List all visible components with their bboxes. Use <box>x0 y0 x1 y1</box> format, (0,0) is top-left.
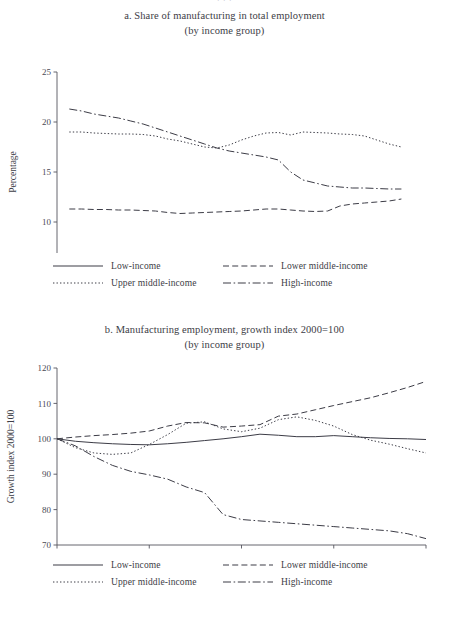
legend-item-upper-middle-income: Upper middle-income <box>52 577 222 587</box>
chart-a-title-block: a. Share of manufacturing in total emplo… <box>0 8 449 38</box>
legend-item-lower-middle-income: Lower middle-income <box>222 560 397 570</box>
x-tick-label: 2015 <box>325 550 344 552</box>
series-line-solid <box>57 434 426 445</box>
legend-item-low-income: Low-income <box>52 261 222 271</box>
y-tick-label: 10 <box>42 217 52 227</box>
chart-b-svg: 70809010011012020002005201020152020Growt… <box>0 352 449 552</box>
legend-item-lower-middle-income: Lower middle-income <box>222 261 397 271</box>
chart-panel-a: a. Share of manufacturing in total emplo… <box>0 8 449 328</box>
legend-label-lower-middle-income: Lower middle-income <box>281 261 368 271</box>
figure-page: · · · a. Share of manufacturing in total… <box>0 0 449 628</box>
y-tick-label: 100 <box>38 434 52 444</box>
legend-row-1: Low-income Lower middle-income <box>0 556 449 573</box>
x-tick-label: 2020 <box>417 550 436 552</box>
y-tick-label: 70 <box>42 540 52 550</box>
y-axis-title: Growth index 2000=100 <box>6 410 16 504</box>
y-tick-label: 15 <box>42 167 52 177</box>
legend-item-upper-middle-income: Upper middle-income <box>52 278 222 288</box>
legend-label-upper-middle-income: Upper middle-income <box>111 577 197 587</box>
chart-b-legend: Low-income Lower middle-income Upper mid… <box>0 556 449 590</box>
series-line-dotted <box>69 132 401 148</box>
legend-item-low-income: Low-income <box>52 560 222 570</box>
legend-item-high-income: High-income <box>222 577 397 587</box>
legend-label-high-income: High-income <box>281 278 332 288</box>
series-line-dash-dot <box>69 109 401 189</box>
series-line-dotted <box>57 417 426 455</box>
legend-swatch-dotted-icon <box>52 278 104 288</box>
x-tick-label: 2000 <box>48 550 67 552</box>
legend-row-2: Upper middle-income High-income <box>0 274 449 291</box>
chart-a-plot-area: 5101520251990200020102020Percentage <box>0 38 449 253</box>
y-axis-title: Percentage <box>8 151 18 193</box>
legend-label-low-income: Low-income <box>111 261 161 271</box>
y-tick-label: 90 <box>42 469 52 479</box>
chart-b-title: b. Manufacturing employment, growth inde… <box>105 324 344 335</box>
chart-a-svg: 5101520251990200020102020Percentage <box>0 38 449 253</box>
legend-row-2: Upper middle-income High-income <box>0 573 449 590</box>
legend-label-low-income: Low-income <box>111 560 161 570</box>
legend-swatch-dash-dot-icon <box>222 577 274 587</box>
cropped-header-artifact: · · · <box>0 0 449 4</box>
chart-b-title-block: b. Manufacturing employment, growth inde… <box>0 322 449 352</box>
chart-b-plot-area: 70809010011012020002005201020152020Growt… <box>0 352 449 552</box>
chart-a-subtitle: (by income group) <box>0 23 449 38</box>
chart-panel-b: b. Manufacturing employment, growth inde… <box>0 322 449 628</box>
legend-label-upper-middle-income: Upper middle-income <box>111 278 197 288</box>
chart-a-title: a. Share of manufacturing in total emplo… <box>124 10 325 21</box>
y-tick-label: 25 <box>42 67 52 77</box>
legend-swatch-solid-icon <box>52 560 104 570</box>
legend-swatch-solid-icon <box>52 261 104 271</box>
legend-item-high-income: High-income <box>222 278 397 288</box>
legend-swatch-dashed-icon <box>222 560 274 570</box>
legend-label-lower-middle-income: Lower middle-income <box>281 560 368 570</box>
legend-row-1: Low-income Lower middle-income <box>0 257 449 274</box>
y-tick-label: 80 <box>42 505 52 515</box>
legend-label-high-income: High-income <box>281 577 332 587</box>
legend-swatch-dotted-icon <box>52 577 104 587</box>
legend-swatch-dashed-icon <box>222 261 274 271</box>
series-line-dash-dot <box>57 439 426 539</box>
y-tick-label: 20 <box>42 117 52 127</box>
series-line-dashed <box>57 381 426 438</box>
y-tick-label: 120 <box>38 363 52 373</box>
series-line-dashed <box>69 199 401 214</box>
x-tick-label: 2010 <box>233 550 252 552</box>
chart-a-legend: Low-income Lower middle-income Upper mid… <box>0 257 449 291</box>
legend-swatch-dash-dot-icon <box>222 278 274 288</box>
chart-b-subtitle: (by income group) <box>0 337 449 352</box>
x-tick-label: 2005 <box>140 550 159 552</box>
y-tick-label: 110 <box>38 399 52 409</box>
